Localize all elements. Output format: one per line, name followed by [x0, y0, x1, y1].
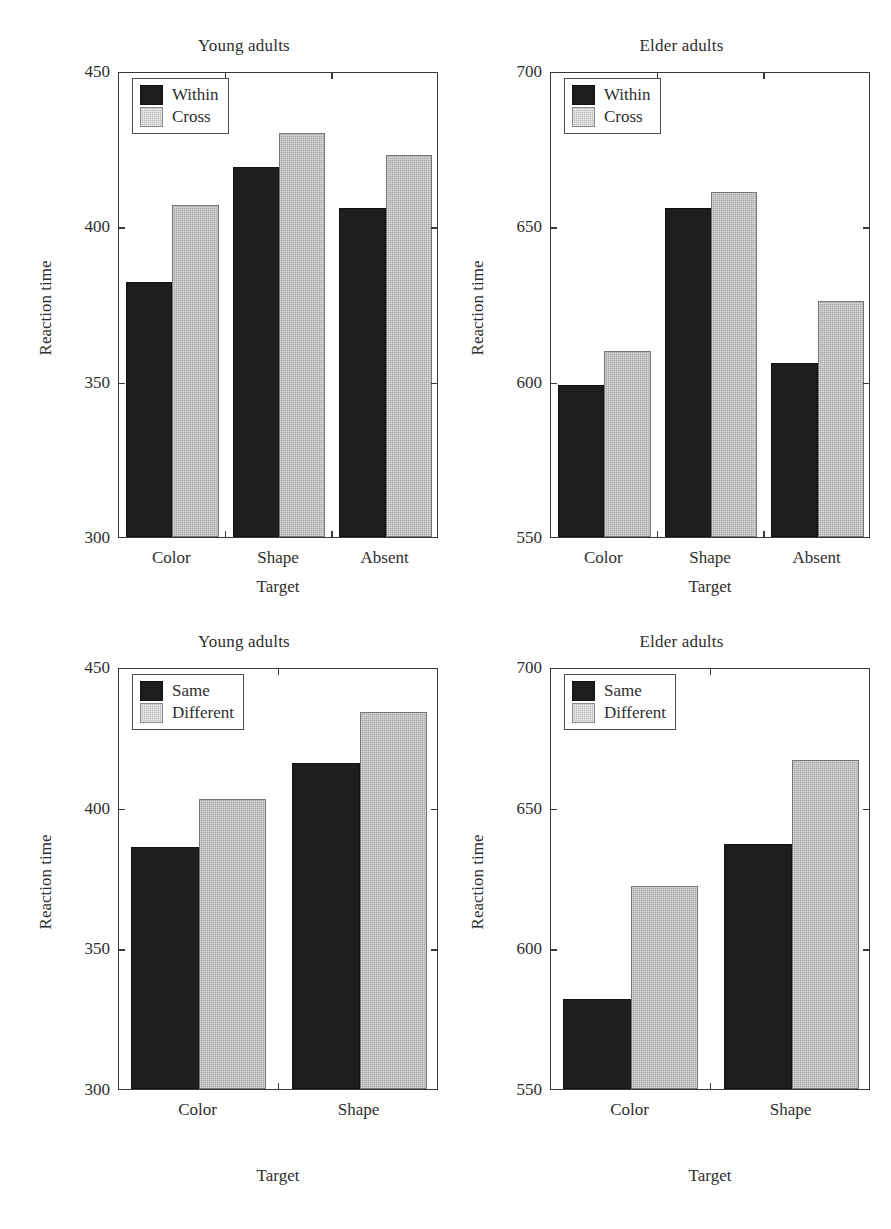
- legend-item: Cross: [572, 106, 651, 128]
- legend-swatch-same: [140, 681, 163, 701]
- legend-swatch-different: [572, 703, 595, 723]
- figure-page: Young adults 300350400450 ColorShapeAbse…: [0, 0, 891, 1229]
- x-tick-label: Shape: [299, 1100, 419, 1120]
- legend-item: Cross: [140, 106, 219, 128]
- y-axis-label: Reaction time: [468, 812, 488, 952]
- legend-item: Within: [140, 84, 219, 106]
- x-tick-mark: [331, 72, 332, 79]
- legend-label: Within: [604, 85, 651, 105]
- legend-swatch-within: [140, 85, 163, 105]
- x-tick-mark: [278, 1083, 279, 1090]
- panel-bottom-right: Elder adults 550600650700 ColorShape Rea…: [446, 614, 891, 1229]
- x-tick-mark: [657, 531, 658, 538]
- legend-item: Same: [572, 680, 666, 702]
- x-tick-label: Color: [111, 548, 231, 568]
- legend-label: Different: [172, 703, 234, 723]
- x-tick-mark: [225, 531, 226, 538]
- legend-swatch-within: [572, 85, 595, 105]
- x-tick-label: Color: [543, 548, 663, 568]
- legend-swatch-different: [140, 703, 163, 723]
- panel-top-left: Young adults 300350400450 ColorShapeAbse…: [0, 0, 446, 614]
- x-tick-label: Shape: [650, 548, 770, 568]
- legend-label: Same: [604, 681, 642, 701]
- x-axis-label: Target: [550, 577, 870, 597]
- legend-swatch-cross: [140, 107, 163, 127]
- legend-item: Different: [572, 702, 666, 724]
- legend-bottom-right: Same Different: [564, 674, 676, 730]
- x-axis-top-right: ColorShapeAbsent: [446, 0, 891, 614]
- panel-top-right: Elder adults 550600650700 ColorShapeAbse…: [446, 0, 891, 614]
- x-tick-label: Absent: [757, 548, 877, 568]
- legend-swatch-same: [572, 681, 595, 701]
- legend-top-right: Within Cross: [564, 78, 661, 134]
- legend-item: Different: [140, 702, 234, 724]
- x-tick-mark: [763, 531, 764, 538]
- x-tick-mark: [710, 1083, 711, 1090]
- legend-label: Cross: [172, 107, 211, 127]
- y-axis-label: Reaction time: [36, 812, 56, 952]
- legend-item: Within: [572, 84, 651, 106]
- x-axis-label: Target: [550, 1166, 870, 1186]
- x-tick-mark: [763, 72, 764, 79]
- legend-label: Cross: [604, 107, 643, 127]
- y-axis-label: Reaction time: [468, 238, 488, 378]
- legend-swatch-cross: [572, 107, 595, 127]
- legend-item: Same: [140, 680, 234, 702]
- panel-bottom-left: Young adults 300350400450 ColorShape Rea…: [0, 614, 446, 1229]
- y-axis-label: Reaction time: [36, 238, 56, 378]
- x-tick-mark: [278, 668, 279, 675]
- legend-label: Different: [604, 703, 666, 723]
- x-tick-label: Color: [570, 1100, 690, 1120]
- x-tick-label: Shape: [731, 1100, 851, 1120]
- x-tick-mark: [331, 531, 332, 538]
- x-tick-mark: [710, 668, 711, 675]
- legend-label: Same: [172, 681, 210, 701]
- legend-top-left: Within Cross: [132, 78, 229, 134]
- x-tick-label: Absent: [325, 548, 445, 568]
- legend-label: Within: [172, 85, 219, 105]
- legend-bottom-left: Same Different: [132, 674, 244, 730]
- figure-grid: Young adults 300350400450 ColorShapeAbse…: [0, 0, 891, 1229]
- x-tick-label: Shape: [218, 548, 338, 568]
- x-axis-label: Target: [118, 1166, 438, 1186]
- x-tick-label: Color: [138, 1100, 258, 1120]
- x-axis-label: Target: [118, 577, 438, 597]
